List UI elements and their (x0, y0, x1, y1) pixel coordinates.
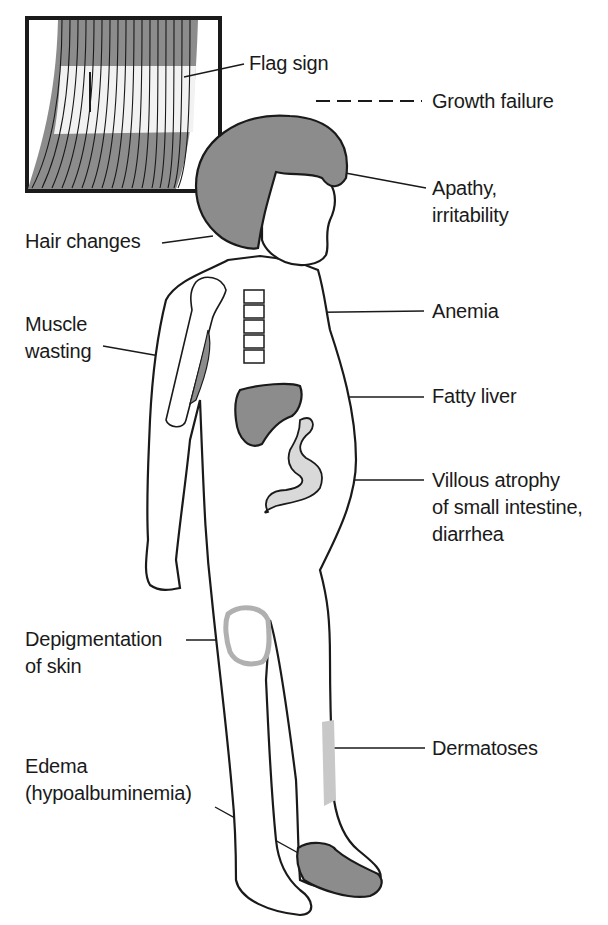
label-villous-atrophy: Villous atrophy of small intestine, diar… (432, 467, 583, 548)
label-fatty-liver: Fatty liver (432, 383, 516, 410)
label-muscle-wasting: Muscle wasting (25, 311, 91, 365)
label-apathy-irritability: Apathy, irritability (432, 175, 509, 229)
leader-apathy (340, 172, 426, 188)
label-depigmentation: Depigmentation of skin (25, 626, 162, 680)
leader-hair-changes (162, 236, 213, 243)
label-hair-changes: Hair changes (25, 228, 140, 255)
label-growth-failure: Growth failure (432, 88, 554, 115)
label-flag-sign: Flag sign (249, 50, 328, 77)
label-dermatoses: Dermatoses (432, 735, 538, 762)
illustration-canvas: Flag sign Growth failure Apathy, irritab… (0, 0, 608, 925)
label-anemia: Anemia (432, 298, 499, 325)
flag-sign-inset (27, 18, 220, 191)
label-edema: Edema (hypoalbuminemia) (25, 753, 192, 807)
